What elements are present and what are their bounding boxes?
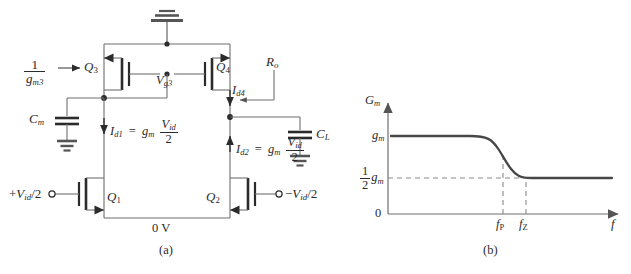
capacitor-cm xyxy=(55,98,104,140)
plot-curve-gm xyxy=(391,136,612,178)
transistor-q2 xyxy=(230,178,282,218)
label-ro: Ro xyxy=(266,55,278,70)
label-id2-equation: Id2 = gm Vid 2 xyxy=(236,136,304,164)
plot-ytick-half-gm: 1 2 gm xyxy=(360,165,384,192)
transistor-q1 xyxy=(49,178,104,218)
figure-root: 1 gm3 Q3 Q4 Vg3 Cm CL Ro Id4 Id1 = gm Vi… xyxy=(0,0,631,274)
ground-top-icon xyxy=(151,11,183,44)
label-q1: Q1 xyxy=(107,190,121,205)
plot-xtick-fz: fZ xyxy=(519,218,528,232)
label-cm: Cm xyxy=(29,112,44,127)
label-one-over-gm3: 1 gm3 xyxy=(24,58,45,88)
q2-source-arrow xyxy=(230,205,240,214)
input-terminal-minus xyxy=(276,191,282,197)
ground-cm-icon xyxy=(57,141,77,151)
plot-panel xyxy=(388,103,618,214)
plot-y-axis-label: Gm xyxy=(365,94,380,108)
label-vg3: Vg3 xyxy=(156,74,172,88)
label-input-plus: +Vid/2 xyxy=(9,187,41,202)
label-id4: Id4 xyxy=(232,84,245,98)
caption-panel-a: (a) xyxy=(159,243,173,258)
label-q3: Q3 xyxy=(84,60,98,75)
q3-source-arrow xyxy=(104,53,114,62)
plot-x-axis-label: f xyxy=(611,217,615,230)
q1-source-arrow xyxy=(95,205,105,214)
output-to-cl-wire xyxy=(230,117,300,130)
plot-xtick-fp: fP xyxy=(496,218,504,232)
schematic-panel xyxy=(49,11,312,218)
plot-ytick-zero: 0 xyxy=(375,206,381,221)
label-cl: CL xyxy=(316,127,330,142)
input-terminal-plus xyxy=(49,191,55,197)
label-id1-equation: Id1 = gm Vid 2 xyxy=(110,118,178,146)
plot-ytick-gm: gm xyxy=(372,129,384,143)
label-zero-volt: 0 V xyxy=(152,221,170,236)
label-q2: Q2 xyxy=(206,190,220,205)
label-q4: Q4 xyxy=(216,60,230,75)
transistor-q3 xyxy=(104,53,160,98)
caption-panel-b: (b) xyxy=(483,243,498,258)
label-input-minus: −Vid/2 xyxy=(285,187,317,202)
node-dot-supply xyxy=(164,41,169,46)
